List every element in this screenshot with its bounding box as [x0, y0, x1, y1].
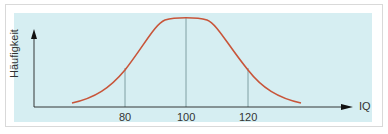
- y-axis-arrow-icon: [31, 29, 37, 39]
- x-tick-100: 100: [177, 111, 195, 123]
- x-tick-120: 120: [239, 111, 257, 123]
- normal-curve: [72, 18, 301, 103]
- x-tick-80: 80: [119, 111, 131, 123]
- y-axis-label: Häufigkeit: [8, 29, 20, 78]
- x-axis-label: IQ: [359, 100, 371, 112]
- x-axis-arrow-icon: [341, 104, 353, 110]
